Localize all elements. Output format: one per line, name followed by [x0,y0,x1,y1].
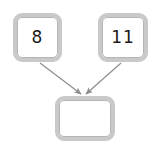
node-bottom-inner-border [59,100,111,137]
node-right-label: 11 [111,29,135,46]
edge-right-to-bottom [86,63,121,94]
diagram-canvas: 8 11 [0,0,158,154]
node-left-label: 8 [32,29,44,46]
edge-left-to-bottom [40,63,81,94]
node-left[interactable]: 8 [13,13,62,62]
node-bottom[interactable] [55,96,115,141]
node-right[interactable]: 11 [98,13,148,62]
